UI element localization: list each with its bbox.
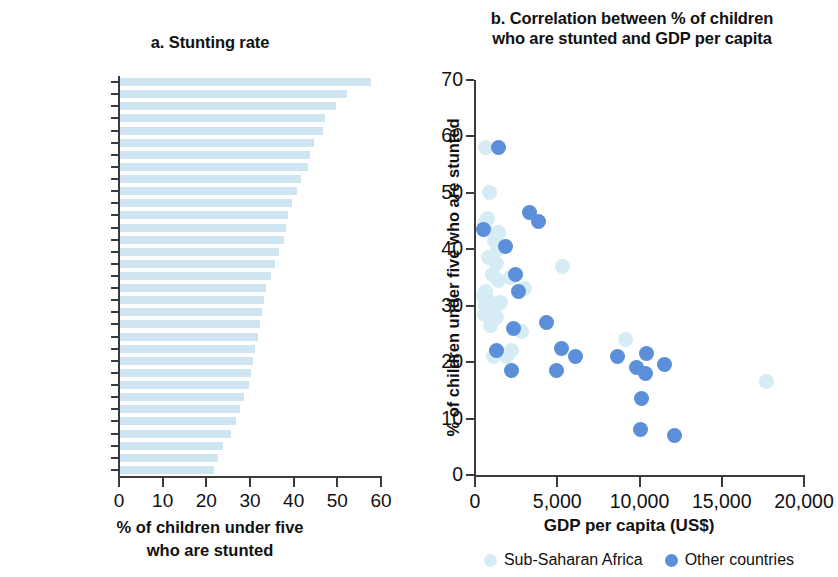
bar-row bbox=[120, 90, 347, 98]
bar-row bbox=[120, 272, 271, 280]
bar-row bbox=[120, 466, 214, 474]
bar-fill bbox=[120, 236, 284, 244]
bar-chart-x-tick bbox=[205, 478, 207, 487]
bar-chart-y-tick bbox=[111, 445, 118, 447]
bar-chart-y-tick bbox=[111, 299, 118, 301]
bar-row bbox=[120, 114, 325, 122]
bar-row bbox=[120, 151, 310, 159]
bar-chart-x-tick-label: 20 bbox=[184, 490, 228, 512]
scatter-point bbox=[491, 273, 506, 288]
panel-b-correlation: b. Correlation between % of childrenwho … bbox=[420, 0, 838, 577]
bar-row bbox=[120, 78, 371, 86]
scatter-point bbox=[539, 315, 554, 330]
bar-chart-y-tick bbox=[111, 214, 118, 216]
scatter-point bbox=[633, 422, 648, 437]
bar-row bbox=[120, 211, 288, 219]
legend-swatch-circle-icon bbox=[665, 554, 678, 567]
bar-row bbox=[120, 187, 297, 195]
bar-chart-y-tick bbox=[111, 178, 118, 180]
scatter-point bbox=[531, 214, 546, 229]
scatter-point bbox=[482, 185, 497, 200]
bar-row bbox=[120, 236, 284, 244]
bar-row bbox=[120, 296, 264, 304]
bar-fill bbox=[120, 260, 275, 268]
bar-chart-y-tick bbox=[111, 372, 118, 374]
panel-b-y-axis-title: % of children under five who are stunted bbox=[444, 93, 463, 463]
scatter-point bbox=[618, 332, 633, 347]
bar-chart-x-tick bbox=[336, 478, 338, 487]
scatter-point bbox=[657, 357, 672, 372]
scatter-x-tick bbox=[721, 477, 723, 487]
scatter-point bbox=[549, 363, 564, 378]
bar-fill bbox=[120, 211, 288, 219]
bar-chart-y-tick bbox=[111, 469, 118, 471]
legend-label: Other countries bbox=[685, 551, 794, 569]
scatter-y-tick bbox=[466, 192, 474, 194]
scatter-point bbox=[639, 346, 654, 361]
panel-a-x-axis-title-line: who are stunted bbox=[147, 541, 274, 559]
bar-fill bbox=[120, 296, 264, 304]
bar-chart-y-tick bbox=[111, 190, 118, 192]
bar-chart-x-tick bbox=[249, 478, 251, 487]
scatter-x-tick bbox=[474, 477, 476, 487]
bar-fill bbox=[120, 308, 262, 316]
scatter-x-tick-label: 20,000 bbox=[759, 490, 838, 513]
scatter-point bbox=[610, 349, 625, 364]
scatter-y-tick bbox=[466, 79, 474, 81]
bar-chart-y-tick bbox=[111, 433, 118, 435]
scatter-point bbox=[508, 267, 523, 282]
scatter-y-tick bbox=[466, 474, 474, 476]
bar-fill bbox=[120, 187, 297, 195]
bar-row bbox=[120, 308, 262, 316]
bar-fill bbox=[120, 345, 255, 353]
bar-chart-y-tick bbox=[111, 117, 118, 119]
scatter-point bbox=[568, 349, 583, 364]
bar-fill bbox=[120, 466, 214, 474]
bar-row bbox=[120, 381, 249, 389]
scatter-point bbox=[759, 374, 774, 389]
bar-fill bbox=[120, 320, 260, 328]
legend-item[interactable]: Sub-Saharan Africa bbox=[484, 551, 643, 569]
legend-swatch-circle-icon bbox=[484, 554, 497, 567]
bar-row bbox=[120, 405, 240, 413]
bar-chart-y-tick bbox=[111, 384, 118, 386]
scatter-point bbox=[506, 321, 521, 336]
bar-row bbox=[120, 393, 244, 401]
bar-fill bbox=[120, 369, 251, 377]
bar-chart-y-tick bbox=[111, 408, 118, 410]
scatter-point bbox=[504, 363, 519, 378]
scatter-point bbox=[483, 318, 498, 333]
bar-chart-plot-area: MadagascarEthiopiaTanzaniaMaliNigeriaLes… bbox=[118, 76, 380, 476]
bar-chart-y-tick bbox=[111, 239, 118, 241]
bar-chart-x-tick-label: 30 bbox=[228, 490, 272, 512]
scatter-y-tick-label: 0 bbox=[431, 465, 463, 485]
bar-fill bbox=[120, 127, 323, 135]
scatter-y-tick-label: 70 bbox=[431, 70, 463, 90]
panel-a-stunting-rate: a. Stunting rate MadagascarEthiopiaTanza… bbox=[0, 0, 420, 577]
bar-row bbox=[120, 224, 286, 232]
bar-fill bbox=[120, 102, 336, 110]
bar-chart-y-tick bbox=[111, 420, 118, 422]
bar-fill bbox=[120, 430, 231, 438]
bar-row bbox=[120, 284, 266, 292]
panel-a-x-axis-title: % of children under fivewho are stunted bbox=[0, 516, 420, 562]
scatter-y-tick bbox=[466, 418, 474, 420]
bar-fill bbox=[120, 224, 286, 232]
bar-row bbox=[120, 357, 253, 365]
bar-chart-y-tick bbox=[111, 154, 118, 156]
bar-row bbox=[120, 139, 314, 147]
scatter-y-tick bbox=[466, 135, 474, 137]
scatter-point bbox=[555, 259, 570, 274]
bar-fill bbox=[120, 454, 218, 462]
bar-chart-y-tick bbox=[111, 202, 118, 204]
bar-chart-x-tick bbox=[293, 478, 295, 487]
bar-row bbox=[120, 442, 223, 450]
bar-fill bbox=[120, 333, 258, 341]
legend-item[interactable]: Other countries bbox=[665, 551, 794, 569]
bar-chart-y-tick bbox=[111, 457, 118, 459]
scatter-point bbox=[489, 343, 504, 358]
scatter-x-tick bbox=[639, 477, 641, 487]
scatter-y-tick bbox=[466, 361, 474, 363]
bar-chart-y-tick bbox=[111, 396, 118, 398]
panel-b-x-axis-title: GDP per capita (US$) bbox=[420, 516, 838, 536]
